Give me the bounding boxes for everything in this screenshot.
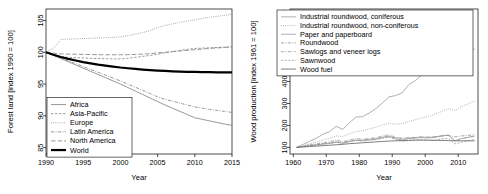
legend-label: Africa: [70, 100, 88, 109]
legend-label: Roundwood: [300, 38, 338, 47]
legend-label: Latin America: [70, 127, 114, 136]
x-tick-label: 1990: [38, 158, 54, 167]
legend-label: Industrial roundwood, non-coniferous: [300, 21, 419, 30]
y-tick-label: 400: [280, 76, 289, 88]
y-tick-label: 100: [36, 46, 45, 58]
y-axis-title: Wood production [index 1961 = 100]: [249, 20, 258, 142]
legend-label: Industrial roundwood, coniferous: [300, 12, 404, 21]
legend-label: Asia-Pacific: [70, 109, 108, 118]
x-tick-label: 1990: [384, 158, 400, 167]
panel-wood-production: 1002003004005006007001960197019801990200…: [244, 0, 488, 194]
y-tick-label: 85: [36, 144, 45, 152]
x-tick-label: 2015: [224, 158, 240, 167]
x-tick-label: 2000: [417, 158, 433, 167]
y-tick-label: 200: [280, 119, 289, 131]
x-tick-label: 2000: [112, 158, 128, 167]
x-tick-label: 1970: [318, 158, 334, 167]
panel-forest-land: 859095100105199019952000200520102015Year…: [0, 0, 244, 194]
series-line: [46, 52, 232, 72]
y-tick-label: 95: [36, 80, 45, 88]
series-line: [46, 14, 232, 52]
legend-label: Sawnwood: [300, 56, 335, 65]
legend-label: Europe: [70, 118, 93, 127]
legend-label: North America: [70, 136, 116, 145]
x-axis-title: Year: [376, 173, 392, 182]
x-tick-label: 1980: [351, 158, 367, 167]
y-tick-label: 300: [280, 97, 289, 109]
x-tick-label: 1960: [285, 158, 301, 167]
legend-label: Wood fuel: [300, 65, 333, 74]
y-tick-label: 105: [36, 14, 45, 26]
figure-two-panel-line-charts: 859095100105199019952000200520102015Year…: [0, 0, 488, 194]
x-tick-label: 2010: [187, 158, 203, 167]
legend-label: Paper and paperboard: [300, 30, 372, 39]
x-tick-label: 2005: [150, 158, 166, 167]
x-axis-title: Year: [131, 173, 147, 182]
legend-label: Sawlogs and veneer logs: [300, 47, 381, 56]
x-tick-label: 1995: [75, 158, 91, 167]
y-tick-label: 90: [36, 112, 45, 120]
y-tick-label: 100: [280, 141, 289, 153]
y-axis-title: Forest land [index 1990 = 100]: [6, 30, 15, 133]
legend-label: World: [70, 146, 89, 155]
x-tick-label: 2010: [450, 158, 466, 167]
